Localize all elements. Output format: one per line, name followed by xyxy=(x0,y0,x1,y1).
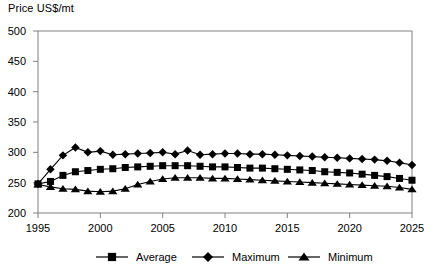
data-point-marker xyxy=(196,151,204,159)
data-point-marker xyxy=(345,154,353,162)
data-point-marker xyxy=(122,164,129,171)
legend-label: Maximum xyxy=(232,251,280,263)
data-point-marker xyxy=(396,175,403,182)
legend-item-average[interactable]: Average xyxy=(96,251,177,263)
data-point-marker xyxy=(184,162,191,169)
data-point-marker xyxy=(146,149,154,157)
x-tick-label: 2005 xyxy=(150,222,174,234)
data-point-marker xyxy=(346,169,353,176)
data-point-marker xyxy=(383,157,391,165)
data-point-marker xyxy=(222,163,229,170)
data-point-marker xyxy=(108,253,116,261)
data-point-marker xyxy=(271,165,278,172)
series-layer xyxy=(33,143,416,194)
legend-label: Minimum xyxy=(328,251,373,263)
data-point-marker xyxy=(384,173,391,180)
data-point-marker xyxy=(147,163,154,170)
data-point-marker xyxy=(395,158,403,166)
x-axis-tickmarks xyxy=(38,213,412,218)
data-point-marker xyxy=(121,185,130,192)
data-point-marker xyxy=(134,149,142,157)
data-point-marker xyxy=(259,165,266,172)
data-point-marker xyxy=(221,149,229,157)
data-point-marker xyxy=(121,150,129,158)
x-tick-label: 2010 xyxy=(213,222,237,234)
data-point-marker xyxy=(333,154,341,162)
x-axis-tick-labels: 1995200020052010201520202025 xyxy=(26,222,424,234)
data-point-marker xyxy=(59,172,66,179)
y-tick-label: 400 xyxy=(8,86,26,98)
data-point-marker xyxy=(158,148,166,156)
chart-legend: AverageMaximumMinimum xyxy=(96,251,373,263)
data-point-marker xyxy=(171,150,179,158)
x-tick-label: 2015 xyxy=(275,222,299,234)
data-point-marker xyxy=(197,163,204,170)
chart-plot: 200250300350400450500 199520002005201020… xyxy=(0,0,435,271)
data-point-marker xyxy=(246,165,253,172)
data-point-marker xyxy=(97,166,104,173)
data-point-marker xyxy=(308,152,316,160)
data-point-marker xyxy=(296,166,303,173)
data-point-marker xyxy=(84,167,91,174)
legend-item-maximum[interactable]: Maximum xyxy=(192,251,280,263)
x-tick-label: 2020 xyxy=(337,222,361,234)
data-point-marker xyxy=(209,163,216,170)
x-tick-label: 2025 xyxy=(400,222,424,234)
data-point-marker xyxy=(203,252,213,262)
data-point-marker xyxy=(183,146,191,154)
data-point-marker xyxy=(408,161,416,169)
data-point-marker xyxy=(233,149,241,157)
data-point-marker xyxy=(296,152,304,160)
data-point-marker xyxy=(371,172,378,179)
data-point-marker xyxy=(370,155,378,163)
data-point-marker xyxy=(284,166,291,173)
data-point-marker xyxy=(72,168,79,175)
y-tick-label: 300 xyxy=(8,146,26,158)
data-point-marker xyxy=(258,150,266,158)
y-axis-tick-labels: 200250300350400450500 xyxy=(8,25,26,219)
data-point-marker xyxy=(321,168,328,175)
data-point-marker xyxy=(109,165,116,172)
data-point-marker xyxy=(109,151,117,159)
data-point-marker xyxy=(409,177,416,184)
data-point-marker xyxy=(208,150,216,158)
data-point-marker xyxy=(321,153,329,161)
data-point-marker xyxy=(159,162,166,169)
y-tick-label: 350 xyxy=(8,116,26,128)
data-point-marker xyxy=(359,171,366,178)
x-tick-label: 1995 xyxy=(26,222,50,234)
chart-container: Price US$/mt 200250300350400450500 19952… xyxy=(0,0,435,271)
data-point-marker xyxy=(358,155,366,163)
x-tick-label: 2000 xyxy=(88,222,112,234)
y-tick-label: 250 xyxy=(8,177,26,189)
data-point-marker xyxy=(71,143,79,151)
y-tick-label: 500 xyxy=(8,25,26,37)
data-point-marker xyxy=(283,151,291,159)
data-point-marker xyxy=(246,150,254,158)
plot-frame xyxy=(38,31,412,213)
data-point-marker xyxy=(334,169,341,176)
data-point-marker xyxy=(96,147,104,155)
y-tick-label: 200 xyxy=(8,207,26,219)
data-point-marker xyxy=(309,167,316,174)
data-point-marker xyxy=(134,163,141,170)
data-point-marker xyxy=(84,148,92,156)
data-point-marker xyxy=(172,162,179,169)
data-point-marker xyxy=(271,151,279,159)
y-tick-label: 450 xyxy=(8,55,26,67)
legend-label: Average xyxy=(136,251,177,263)
legend-item-minimum[interactable]: Minimum xyxy=(288,251,373,263)
data-point-marker xyxy=(234,164,241,171)
